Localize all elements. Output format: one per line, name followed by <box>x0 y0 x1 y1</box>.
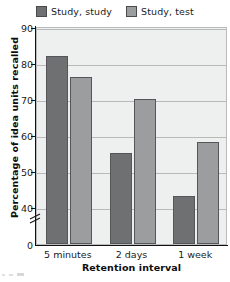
x-tick-label: 1 week <box>178 249 212 260</box>
plot-inner <box>37 28 226 244</box>
chart-legend: Study, study Study, test <box>0 2 230 20</box>
y-tick-label-zero: 0 <box>3 240 33 251</box>
x-axis-title: Retention interval <box>36 262 227 273</box>
bar <box>70 77 92 244</box>
x-tick-label: 5 minutes <box>44 249 92 260</box>
bar <box>173 196 195 244</box>
gridline <box>37 29 226 30</box>
legend-entry-study-test: Study, test <box>126 6 194 17</box>
bar <box>46 56 68 244</box>
bar <box>134 99 156 244</box>
legend-label: Study, test <box>141 6 194 17</box>
y-axis-title: Percentage of idea units recalled <box>9 20 20 235</box>
axis-break-icon <box>29 206 42 226</box>
legend-label: Study, study <box>51 6 112 17</box>
legend-swatch-icon <box>36 6 47 17</box>
bar <box>197 142 219 244</box>
scan-artifact <box>2 272 30 277</box>
x-tick-label: 2 days <box>116 249 148 260</box>
plot-area <box>36 27 227 245</box>
bar-chart-figure: Study, study Study, test 4050607080900 5… <box>0 0 230 282</box>
x-axis-ticks: 5 minutes2 days1 week <box>36 245 227 263</box>
legend-entry-study-study: Study, study <box>36 6 112 17</box>
legend-swatch-icon <box>126 6 137 17</box>
bar <box>110 153 132 244</box>
